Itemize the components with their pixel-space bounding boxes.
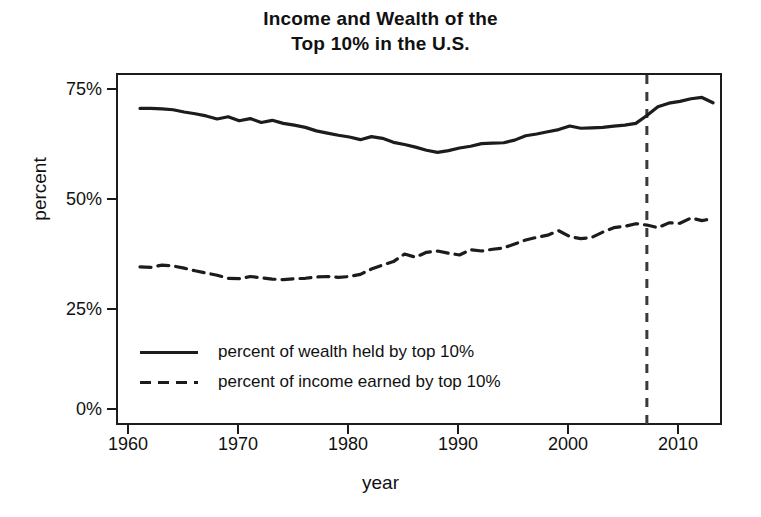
y-tick-mark-25 <box>107 308 116 310</box>
series-line-income <box>140 218 713 280</box>
x-tick-label-1990: 1990 <box>423 434 493 455</box>
chart-title: Income and Wealth of the Top 10% in the … <box>0 6 761 56</box>
series-line-wealth <box>140 97 713 152</box>
dashed-line-key-icon <box>140 376 202 388</box>
y-tick-label-50: 50% <box>40 189 102 210</box>
y-tick-mark-75 <box>107 88 116 90</box>
x-tick-label-1980: 1980 <box>313 434 383 455</box>
chart-title-line-1: Income and Wealth of the <box>263 8 498 29</box>
x-tick-label-2000: 2000 <box>533 434 603 455</box>
legend-item-wealth: percent of wealth held by top 10% <box>140 337 501 367</box>
chart-title-line-2: Top 10% in the U.S. <box>0 31 761 56</box>
x-axis-label: year <box>0 472 761 494</box>
legend-label-income: percent of income earned by top 10% <box>218 372 501 392</box>
legend-label-wealth: percent of wealth held by top 10% <box>218 342 474 362</box>
chart-legend: percent of wealth held by top 10% percen… <box>140 337 501 397</box>
x-tick-label-2010: 2010 <box>643 434 713 455</box>
x-tick-label-1960: 1960 <box>93 434 163 455</box>
legend-item-income: percent of income earned by top 10% <box>140 367 501 397</box>
solid-line-key-icon <box>140 346 202 358</box>
y-tick-label-75: 75% <box>40 79 102 100</box>
y-tick-mark-50 <box>107 198 116 200</box>
x-tick-label-1970: 1970 <box>203 434 273 455</box>
y-tick-label-25: 25% <box>40 299 102 320</box>
y-tick-mark-0 <box>107 408 116 410</box>
y-tick-label-0: 0% <box>40 399 102 420</box>
chart-figure: Income and Wealth of the Top 10% in the … <box>0 0 761 517</box>
